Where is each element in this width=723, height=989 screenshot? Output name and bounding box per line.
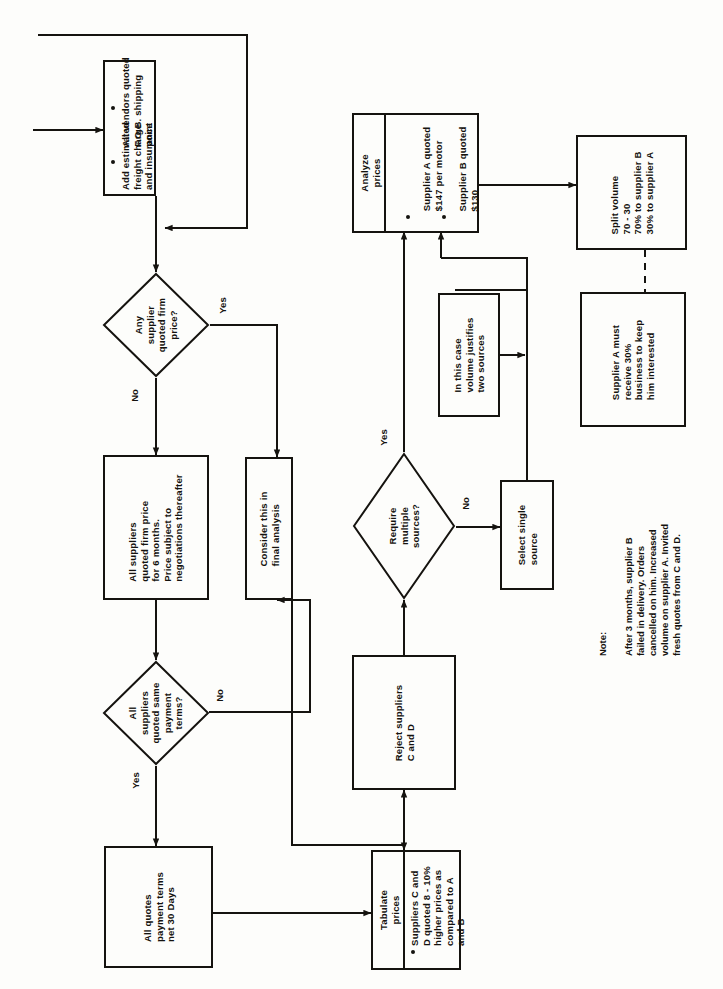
note-label: Note: [597, 632, 609, 656]
node-analyze-prices-bullet-1: Supplier A quoted$147 per motor [421, 127, 444, 212]
bullet-marker [442, 215, 446, 219]
node-volume-justifies: In this casevolume justifiestwo sources [438, 293, 500, 417]
node-supplier-a-30-percent-label: Supplier A mustreceive 30%business to ke… [610, 319, 656, 399]
node-any-firm-price: Anysupplierquoted firmprice? [102, 272, 210, 378]
node-any-firm-price-label: Anysupplierquoted firmprice? [133, 298, 179, 352]
node-same-payment-terms: Allsuppliersquoted samepaymentterms? [102, 660, 210, 766]
branch-label-no: No [128, 390, 141, 401]
node-analyze-prices-header: Analyzeprices [359, 154, 382, 191]
node-tabulate-prices-header: Tabulateprices [378, 890, 401, 930]
node-tabulate-prices-bullet-1: Suppliers C andD quoted 8 - 10%higher pr… [409, 866, 467, 946]
note-text-wrapper: Note: After 3 months, supplier Bfailed i… [597, 524, 683, 656]
node-analyze-prices: Analyzeprices Supplier A quoted$147 per … [352, 113, 479, 233]
branch-label-no: No [459, 498, 472, 509]
bullet-marker [111, 160, 115, 164]
node-volume-justifies-label: In this casevolume justifiestwo sources [452, 318, 487, 393]
node-require-multiple-label: Requiremultiplesources? [387, 504, 422, 548]
node-vendors-quoted: All vendors quotedF.O.B. shippingpoint A… [103, 60, 156, 196]
node-same-payment-terms-label: Allsuppliersquoted samepaymentterms? [127, 683, 185, 744]
node-supplier-a-30-percent: Supplier A mustreceive 30%business to ke… [580, 292, 686, 427]
node-require-multiple: Requiremultiplesources? [352, 452, 456, 600]
node-analyze-prices-bullet-2: Supplier B quoted$130 [457, 126, 480, 211]
branch-label-yes: Yes [214, 300, 230, 311]
node-reject-c-d: Reject suppliersC and D [352, 655, 456, 790]
bullet-marker [111, 106, 115, 110]
node-vendors-quoted-bullet-2: Add estimatedfreight chargeand insurance [120, 122, 155, 190]
node-select-single-source: Select singlesource [500, 480, 554, 590]
node-reject-c-d-label: Reject suppliersC and D [393, 684, 416, 761]
node-net-30-days-label: All quotespayment termsnet 30 Days [141, 872, 176, 942]
node-divider [403, 852, 405, 968]
node-consider-final: Consider this infinal analysis [245, 457, 293, 600]
node-net-30-days: All quotespayment termsnet 30 Days [104, 846, 213, 968]
node-firm-price-6-months-label: All suppliersquoted firm pricefor 6 mont… [127, 474, 185, 582]
node-firm-price-6-months: All suppliersquoted firm pricefor 6 mont… [103, 455, 209, 600]
node-consider-final-label: Consider this infinal analysis [258, 491, 281, 566]
node-divider [384, 115, 386, 231]
note-body: After 3 months, supplier Bfailed in deli… [623, 524, 683, 656]
node-select-single-source-label: Select singlesource [516, 505, 539, 566]
flowchart-page: All vendors quotedF.O.B. shippingpoint A… [0, 0, 723, 989]
branch-label-yes: Yes [375, 432, 391, 443]
node-split-volume-label: Split volume70 - 3070% to supplier B30% … [609, 151, 655, 234]
bullet-marker [411, 950, 415, 954]
branch-label-yes: Yes [127, 775, 143, 786]
bullet-marker [406, 215, 410, 219]
note-block: Note: After 3 months, supplier Bfailed i… [575, 495, 705, 685]
node-tabulate-prices: Tabulateprices Suppliers C andD quoted 8… [371, 850, 461, 970]
node-split-volume: Split volume70 - 3070% to supplier B30% … [576, 135, 687, 250]
branch-label-no: No [213, 690, 226, 701]
